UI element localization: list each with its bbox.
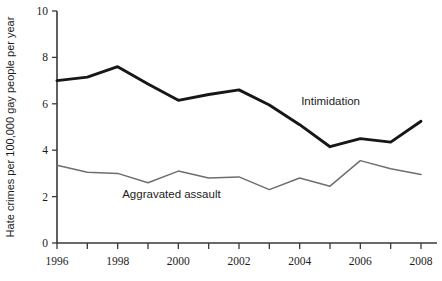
y-tick-label: 8 <box>42 51 48 63</box>
line-chart: Hate crimes per 100,000 gay people per y… <box>0 0 442 281</box>
x-axis-ticks: 1996199820002002200420062008 <box>46 243 433 267</box>
axis-lines-path <box>57 11 437 243</box>
y-axis-ticks: 0246810 <box>37 5 58 249</box>
y-tick-label: 2 <box>42 191 48 203</box>
x-tick-label: 1998 <box>106 255 129 267</box>
series-annotation-aggravated-assault: Aggravated assault <box>122 188 221 200</box>
y-tick-label: 10 <box>37 5 49 17</box>
series-line-aggravated-assault <box>57 161 421 190</box>
series-annotation-intimidation: Intimidation <box>301 95 360 107</box>
x-tick-label: 2006 <box>349 255 372 267</box>
y-tick-label: 6 <box>42 98 48 110</box>
axis-lines <box>57 11 437 243</box>
x-tick-label: 2008 <box>410 255 433 267</box>
chart-canvas: Hate crimes per 100,000 gay people per y… <box>0 0 442 281</box>
y-axis-label: Hate crimes per 100,000 gay people per y… <box>4 16 16 237</box>
x-tick-label: 2002 <box>228 255 251 267</box>
x-tick-label: 2004 <box>288 255 311 267</box>
x-tick-label: 1996 <box>46 255 69 267</box>
y-tick-label: 4 <box>42 144 48 156</box>
y-axis-label-text: Hate crimes per 100,000 gay people per y… <box>4 16 16 237</box>
data-series <box>57 67 421 190</box>
series-line-intimidation <box>57 67 421 147</box>
x-tick-label: 2000 <box>167 255 190 267</box>
y-tick-label: 0 <box>42 237 48 249</box>
